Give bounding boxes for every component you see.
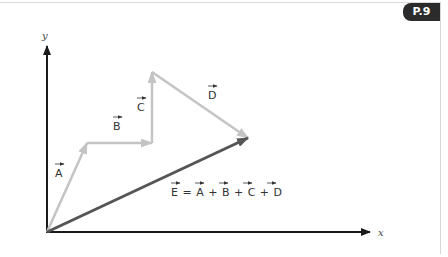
label-d: D xyxy=(208,86,217,102)
svg-text:B: B xyxy=(113,120,121,133)
vector-diagram: y x A B C D E = A + B + C + D xyxy=(0,0,448,257)
label-b: B xyxy=(113,117,122,133)
vector-e xyxy=(47,138,248,232)
svg-text:C: C xyxy=(137,101,145,114)
svg-text:A: A xyxy=(55,167,63,180)
x-axis-label: x xyxy=(378,227,384,238)
vector-d xyxy=(152,72,248,138)
label-c: C xyxy=(137,98,146,114)
y-axis-label: y xyxy=(41,30,48,41)
sum-equation: E = A + B + C + D xyxy=(171,183,282,199)
vector-a xyxy=(47,143,87,232)
equation-text: E = A + B + C + D xyxy=(171,186,282,199)
label-a: A xyxy=(55,164,64,180)
svg-text:D: D xyxy=(208,89,216,102)
